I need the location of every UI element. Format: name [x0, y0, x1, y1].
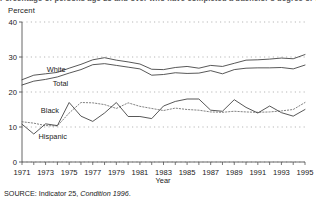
x-axis-title: Year: [156, 176, 171, 185]
x-tick-label-1975: 1975: [61, 168, 78, 177]
series-label-black: Black: [41, 106, 59, 115]
source-note: SOURCE: Indicator 25, Condition 1996.: [4, 189, 131, 198]
x-tick-label-1985: 1985: [179, 168, 196, 177]
y-tick-label-40: 40: [9, 18, 17, 27]
x-tick-label-1979: 1979: [108, 168, 125, 177]
x-tick-label-1981: 1981: [131, 168, 148, 177]
y-tick-group: 010203040: [9, 18, 22, 167]
x-tick-label-1973: 1973: [37, 168, 54, 177]
y-tick-label-20: 20: [9, 88, 17, 97]
series-label-hispanic: Hispanic: [39, 132, 68, 141]
y-tick-label-0: 0: [13, 158, 17, 167]
series-labels-group: WhiteTotalBlackHispanic: [39, 65, 69, 141]
source-main: Indicator 25,: [39, 189, 79, 198]
x-tick-label-1971: 1971: [14, 168, 31, 177]
line-chart-plot: 010203040 197119731975197719791981198319…: [0, 0, 316, 204]
series-line-hispanic: [22, 99, 305, 134]
series-label-total: Total: [53, 79, 69, 88]
y-tick-label-30: 30: [9, 53, 17, 62]
figure-container: Percentage of persons age 25 and over wh…: [0, 0, 316, 204]
source-suffix: .: [129, 189, 131, 198]
x-tick-label-1993: 1993: [273, 168, 290, 177]
series-label-white: White: [47, 65, 66, 74]
source-prefix: SOURCE:: [4, 189, 37, 198]
source-italic: Condition 1996: [80, 189, 128, 198]
x-tick-label-1989: 1989: [226, 168, 243, 177]
x-tick-label-1991: 1991: [249, 168, 266, 177]
x-tick-label-1987: 1987: [202, 168, 219, 177]
x-tick-label-1995: 1995: [297, 168, 314, 177]
y-tick-label-10: 10: [9, 123, 17, 132]
x-tick-group: 1971197319751977197919811983198519871989…: [14, 162, 314, 177]
x-tick-label-1977: 1977: [84, 168, 101, 177]
